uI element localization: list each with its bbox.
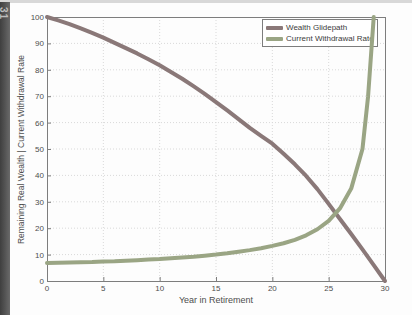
y-tick-label: 70 [35, 92, 44, 101]
series-line-wealth-glidepath [47, 17, 385, 281]
x-tick-label: 0 [45, 284, 50, 293]
x-tick-label: 25 [324, 284, 333, 293]
y-tick-label: 80 [35, 66, 44, 75]
y-tick-label: 10 [35, 251, 44, 260]
legend: Wealth Glidepath Current Withdrawal Rate [262, 19, 378, 47]
x-axis-label: Year in Retirement [47, 295, 385, 305]
y-axis-label: Remaining Real Wealth | Current Withdraw… [16, 18, 27, 282]
series-line-current-withdrawal-rate [47, 17, 374, 263]
x-tick-label: 10 [155, 284, 164, 293]
legend-label-current-withdrawal-rate: Current Withdrawal Rate [286, 34, 374, 43]
page-gutter: 31 [0, 2, 10, 315]
plot-frame [48, 18, 386, 282]
x-tick-label: 20 [268, 284, 277, 293]
legend-item-wealth-glidepath: Wealth Glidepath [266, 22, 376, 33]
y-tick-label: 90 [35, 39, 44, 48]
x-tick-label: 15 [212, 284, 221, 293]
wealth-glidepath-line-swatch [266, 26, 283, 30]
page-number: 31 [0, 7, 9, 20]
plot-series-lines [0, 0, 412, 315]
y-tick-label: 100 [31, 13, 45, 22]
legend-label-wealth-glidepath: Wealth Glidepath [286, 23, 347, 32]
x-tick-label: 30 [381, 284, 390, 293]
x-tick-label: 5 [101, 284, 106, 293]
y-tick-label: 20 [35, 224, 44, 233]
y-tick-label: 30 [35, 198, 44, 207]
legend-item-current-withdrawal-rate: Current Withdrawal Rate [266, 33, 376, 44]
y-tick-label: 60 [35, 119, 44, 128]
scanned-page: 31 0510152025300102030405060708090100 We… [0, 0, 412, 315]
y-tick-label: 0 [40, 277, 45, 286]
plot-axes: 0510152025300102030405060708090100 [0, 0, 412, 315]
current-withdrawal-rate-line-swatch [266, 37, 283, 41]
y-tick-label: 40 [35, 171, 44, 180]
y-tick-label: 50 [35, 145, 44, 154]
retirement-withdrawal-chart: 0510152025300102030405060708090100 Wealt… [0, 0, 412, 315]
